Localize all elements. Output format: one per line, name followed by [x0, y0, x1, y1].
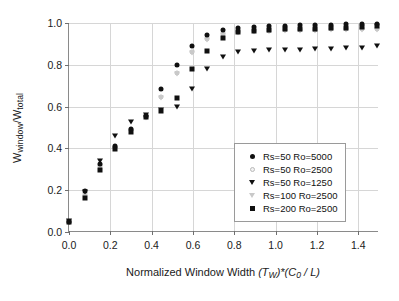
legend-label: Rs=200 Ro=2500: [263, 203, 337, 214]
marker-filled-triangle-down: [143, 112, 149, 117]
x-axis-tick-label: 0.4: [144, 239, 159, 251]
marker-filled-triangle-down: [97, 159, 103, 164]
data-point: [297, 47, 303, 52]
x-title-italic-3: / L): [301, 266, 320, 278]
marker-filled-triangle-down: [297, 47, 303, 52]
gridline-vertical: [110, 23, 111, 231]
marker-filled-triangle-down: [251, 48, 257, 53]
data-point: [112, 134, 118, 139]
legend-label: Rs=50 Ro=5000: [263, 151, 332, 162]
data-point: [174, 71, 180, 76]
marker-filled-square: [159, 109, 164, 114]
marker-open-triangle-down: [220, 32, 226, 37]
marker-open-circle: [143, 115, 148, 120]
marker-filled-triangle-down: [359, 45, 365, 50]
x-axis-tick-label: 1.0: [268, 239, 283, 251]
marker-filled-circle: [220, 27, 225, 32]
data-point: [374, 26, 379, 31]
data-point: [251, 28, 256, 33]
data-point: [98, 167, 103, 172]
data-point: [267, 24, 272, 29]
marker-open-triangle-down: [82, 193, 88, 198]
marker-open-triangle-down: [251, 29, 257, 34]
y-title-sub-2: total: [15, 92, 25, 109]
data-point: [297, 28, 303, 33]
data-point: [236, 25, 241, 30]
x-axis-tick: [69, 231, 70, 235]
legend-item: Rs=50 Ro=1250: [241, 176, 337, 189]
data-point: [159, 86, 164, 91]
marker-open-triangle-down: [282, 28, 288, 33]
data-point: [251, 48, 257, 53]
data-point: [267, 28, 272, 33]
data-point: [97, 159, 103, 164]
y-axis-title: Wwindow/Wtotal: [10, 23, 26, 232]
data-point: [67, 219, 72, 224]
data-point: [158, 95, 164, 100]
marker-open-circle: [205, 37, 210, 42]
legend-marker-filled-triangle-down: [241, 180, 263, 185]
marker-filled-square: [220, 35, 225, 40]
legend-marker-filled-square: [241, 206, 263, 211]
marker-filled-square: [143, 114, 148, 119]
legend-item: Rs=50 Ro=5000: [241, 150, 337, 163]
x-axis-tick: [152, 231, 153, 235]
data-point: [374, 44, 380, 49]
data-point: [359, 27, 364, 32]
marker-filled-triangle-down: [235, 49, 241, 54]
marker-filled-square: [374, 24, 379, 29]
data-point: [344, 25, 349, 30]
marker-open-circle: [98, 164, 103, 169]
data-point: [204, 38, 210, 43]
marker-filled-circle: [236, 25, 241, 30]
x-axis-tick: [234, 231, 235, 235]
y-axis-tick-label: 0.0: [47, 226, 62, 238]
marker-filled-square: [67, 219, 72, 224]
data-point: [205, 37, 210, 42]
x-title-italic-1: (T: [258, 266, 268, 278]
marker-filled-triangle-down: [343, 46, 349, 51]
x-title-part-main: Normalized Window Width: [126, 266, 258, 278]
data-point: [251, 24, 256, 29]
data-point: [98, 162, 103, 167]
marker-filled-triangle-down: [374, 44, 380, 49]
marker-open-circle: [236, 29, 241, 34]
marker-filled-square: [298, 27, 303, 32]
legend-label: Rs=50 Ro=1250: [263, 177, 332, 188]
marker-open-circle: [359, 27, 364, 32]
data-point: [66, 218, 72, 223]
x-axis-tick-label: 0.6: [186, 239, 201, 251]
data-point: [174, 70, 179, 75]
x-axis-tick: [317, 231, 318, 235]
x-axis-tick: [193, 231, 194, 235]
data-point: [374, 27, 380, 32]
data-point: [159, 95, 164, 100]
gridline-vertical: [193, 23, 194, 231]
data-point: [266, 29, 272, 34]
data-point: [67, 219, 72, 224]
data-point: [328, 26, 333, 31]
y-axis-tick: [65, 65, 69, 66]
data-point: [128, 129, 134, 134]
marker-open-triangle-down: [328, 28, 334, 33]
x-axis-tick-label: 0.0: [62, 239, 77, 251]
x-axis-tick-label: 1.2: [310, 239, 325, 251]
data-point: [359, 25, 364, 30]
marker-filled-square: [128, 130, 133, 135]
marker-filled-square: [267, 28, 272, 33]
marker-open-circle: [67, 219, 72, 224]
marker-filled-square: [98, 167, 103, 172]
gridline-horizontal: [69, 65, 378, 66]
marker-filled-triangle-down: [266, 48, 272, 53]
data-point: [343, 28, 349, 33]
marker-filled-triangle-down: [112, 134, 118, 139]
legend-marker-open-triangle-down: [241, 193, 263, 198]
marker-filled-square: [328, 26, 333, 31]
marker-filled-circle: [98, 162, 103, 167]
x-axis-tick: [276, 231, 277, 235]
marker-open-triangle-down: [128, 129, 134, 134]
marker-open-triangle-down: [249, 193, 255, 198]
marker-open-circle: [250, 167, 255, 172]
data-point: [82, 193, 88, 198]
marker-open-triangle-down: [297, 28, 303, 33]
